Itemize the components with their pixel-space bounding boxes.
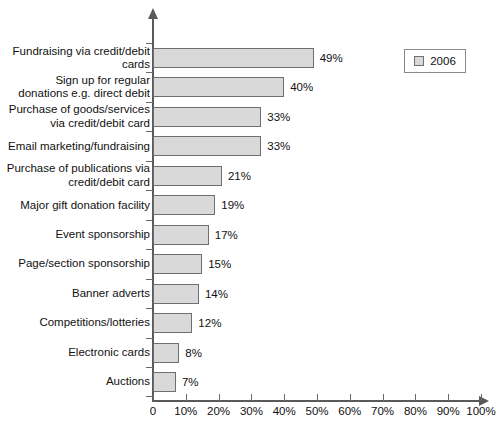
x-axis-tick [350,394,351,401]
x-axis-tick [153,394,154,401]
x-axis-tick [383,394,384,401]
category-label: Fundraising via credit/debit cards [0,45,150,72]
category-label: Sign up for regular donations e.g. direc… [0,74,150,101]
x-axis-tick [219,394,220,401]
x-axis-tick-label: 20% [207,405,230,417]
category-label: Email marketing/fundraising [0,140,150,154]
x-axis-tick [186,394,187,401]
bar-value-label: 21% [228,166,251,186]
x-axis-tick-label: 80% [404,405,427,417]
y-axis-tick [146,131,153,132]
x-axis-tick [284,394,285,401]
y-axis-tick [146,190,153,191]
x-axis-tick-label: 10% [174,405,197,417]
bar [153,254,202,274]
bar [153,136,261,156]
bar [153,77,284,97]
bar-value-label: 8% [185,343,202,363]
x-axis-tick-label: 30% [240,405,263,417]
x-axis-tick [317,394,318,401]
bar [153,48,314,68]
y-axis-tick [146,220,153,221]
x-axis-tick [481,394,482,401]
x-axis-tick-label: 90% [437,405,460,417]
bar [153,195,215,215]
bar-value-label: 33% [267,107,290,127]
category-label: Page/section sponsorship [0,257,150,271]
x-axis-tick-label: 60% [338,405,361,417]
bar-value-label: 15% [208,254,231,274]
y-axis-tick [146,249,153,250]
bar-value-label: 7% [182,372,199,392]
x-axis-tick [448,394,449,401]
category-label: Banner adverts [0,287,150,301]
category-label: Major gift donation facility [0,199,150,213]
category-label: Auctions [0,375,150,389]
category-label: Competitions/lotteries [0,316,150,330]
bar [153,107,261,127]
category-label: Event sponsorship [0,228,150,242]
bar-value-label: 12% [198,313,221,333]
bar-value-label: 33% [267,136,290,156]
x-axis-tick-label: 70% [371,405,394,417]
bar-value-label: 17% [215,225,238,245]
y-axis-tick [146,338,153,339]
bar-value-label: 40% [290,77,313,97]
x-axis-tick-label: 0 [150,405,156,417]
bar [153,225,209,245]
x-axis-tick-label: 100% [466,405,495,417]
bar-value-label: 19% [221,195,244,215]
chart-legend: 2006 [404,49,466,73]
x-axis-tick [251,394,252,401]
y-axis-tick [146,308,153,309]
y-axis-arrow-icon [148,8,158,19]
category-label: Electronic cards [0,346,150,360]
legend-item-label: 2006 [430,55,456,67]
legend-swatch-icon [414,56,424,66]
bar [153,313,192,333]
x-axis-tick [415,394,416,401]
bar [153,284,199,304]
y-axis-tick [146,279,153,280]
category-label: Purchase of goods/services via credit/de… [0,103,150,130]
y-axis-tick [146,367,153,368]
bar [153,372,176,392]
bar [153,166,222,186]
category-label: Purchase of publications via credit/debi… [0,162,150,189]
bar [153,343,179,363]
x-axis-tick-label: 40% [273,405,296,417]
y-axis-tick [146,396,153,397]
x-axis-tick-label: 50% [305,405,328,417]
bar-value-label: 49% [320,48,343,68]
bar-value-label: 14% [205,284,228,304]
